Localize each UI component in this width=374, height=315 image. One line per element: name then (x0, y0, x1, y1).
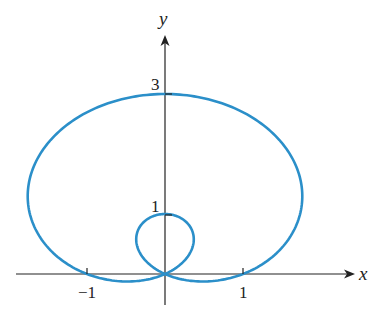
polar-plot: x y −1 1 1 3 (0, 0, 374, 315)
y-tick-label-1: 1 (151, 197, 160, 216)
y-tick-label-3: 3 (151, 75, 160, 94)
x-tick-label-1: 1 (239, 283, 248, 302)
x-axis-label: x (358, 263, 368, 284)
x-tick-label-neg1: −1 (78, 283, 96, 302)
y-axis-label: y (157, 8, 168, 29)
